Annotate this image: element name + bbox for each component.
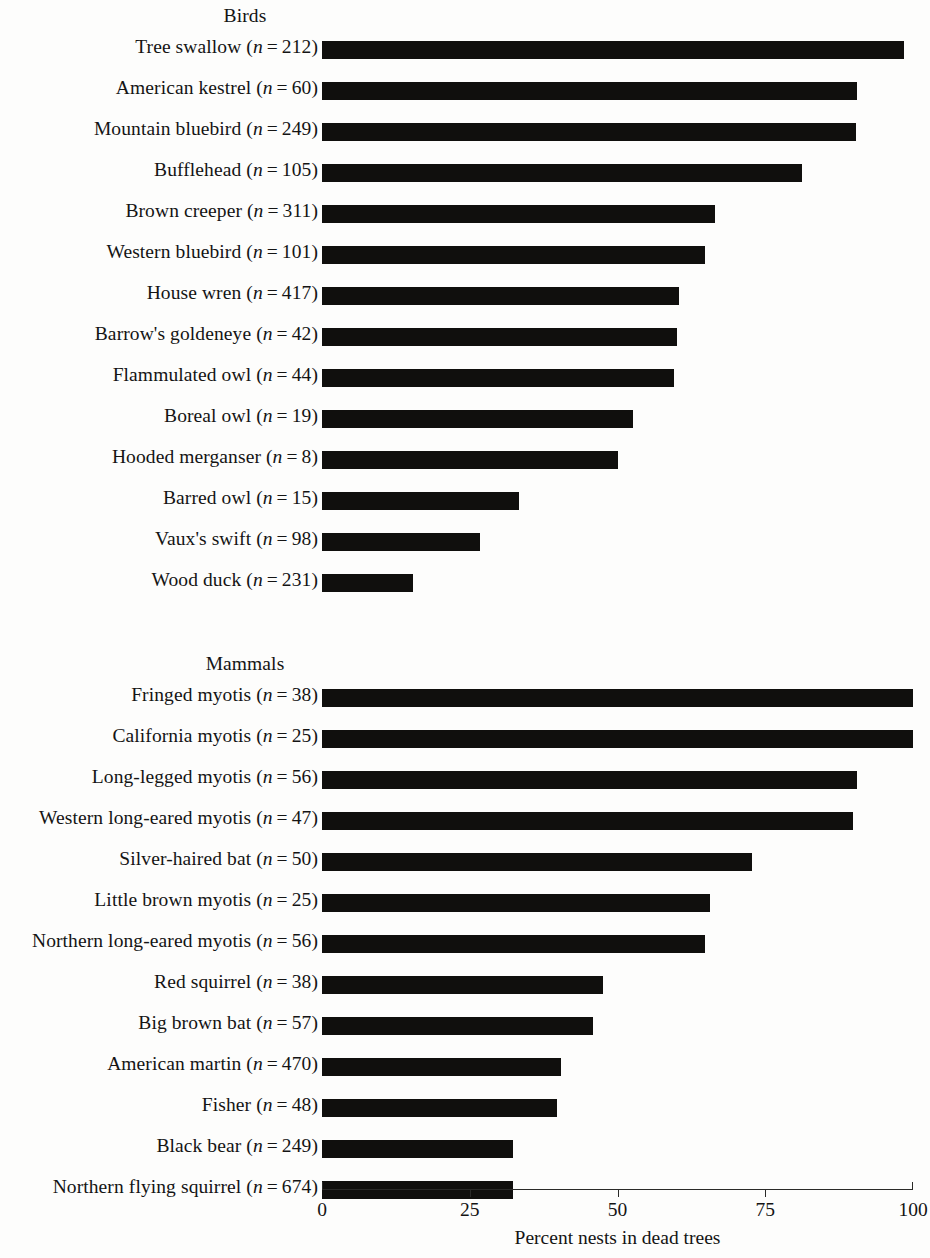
x-axis-tick-label: 0 — [317, 1200, 327, 1220]
bar — [322, 1058, 561, 1076]
bar — [322, 853, 752, 871]
bar — [322, 410, 633, 428]
bar-track — [322, 1089, 913, 1130]
bar-track — [322, 1007, 913, 1048]
panel-title-mammals: Mammals — [0, 654, 490, 674]
bar — [322, 492, 519, 510]
bar — [322, 369, 674, 387]
bar — [322, 533, 480, 551]
bar — [322, 1017, 593, 1035]
bar — [322, 730, 913, 748]
bar-row-label: Western long-eared myotis (n = 47) — [39, 802, 318, 843]
bar — [322, 1181, 513, 1199]
bar — [322, 812, 853, 830]
bar-row: Boreal owl (n = 19) — [0, 400, 930, 441]
bar — [322, 1140, 513, 1158]
bar-row-label: Big brown bat (n = 57) — [138, 1007, 318, 1048]
bar-track — [322, 802, 913, 843]
bar — [322, 164, 802, 182]
bar-rows-birds: Tree swallow (n = 212)American kestrel (… — [0, 31, 930, 605]
bar-track — [322, 154, 913, 195]
bar-track — [322, 72, 913, 113]
bar — [322, 574, 413, 592]
bar-track — [322, 966, 913, 1007]
dead-tree-nesting-chart: Birds Tree swallow (n = 212)American kes… — [0, 0, 930, 1258]
bar — [322, 771, 857, 789]
bar-row: Flammulated owl (n = 44) — [0, 359, 930, 400]
bar-row-label: Wood duck (n = 231) — [152, 564, 318, 605]
bar-row: Fringed myotis (n = 38) — [0, 679, 930, 720]
bar-track — [322, 113, 913, 154]
bar-row-label: House wren (n = 417) — [147, 277, 318, 318]
x-axis-tick-label: 25 — [460, 1200, 480, 1220]
x-axis-title: Percent nests in dead trees — [322, 1228, 913, 1248]
bar-track — [322, 720, 913, 761]
bar-row: Brown creeper (n = 311) — [0, 195, 930, 236]
bar-row: Vaux's swift (n = 98) — [0, 523, 930, 564]
bar-track — [322, 1048, 913, 1089]
bar-row: Barred owl (n = 15) — [0, 482, 930, 523]
bar — [322, 894, 710, 912]
bar — [322, 976, 603, 994]
bar — [322, 451, 618, 469]
bar-track — [322, 761, 913, 802]
bar-row-label: Black bear (n = 249) — [156, 1130, 318, 1171]
bar-track — [322, 441, 913, 482]
x-axis-tick — [618, 1189, 619, 1197]
bar-track — [322, 195, 913, 236]
bar-row: Northern long-eared myotis (n = 56) — [0, 925, 930, 966]
bar-track — [322, 318, 913, 359]
panel-title-birds: Birds — [0, 6, 490, 26]
bar-row: Wood duck (n = 231) — [0, 564, 930, 605]
bar-track — [322, 564, 913, 605]
bar-row-label: American kestrel (n = 60) — [116, 72, 318, 113]
x-axis-tick — [470, 1189, 471, 1197]
bar-row-label: Western bluebird (n = 101) — [106, 236, 318, 277]
bar-track — [322, 359, 913, 400]
bar-row: Big brown bat (n = 57) — [0, 1007, 930, 1048]
bar-row-label: Mountain bluebird (n = 249) — [94, 113, 318, 154]
bar-track — [322, 1130, 913, 1171]
bar-row: California myotis (n = 25) — [0, 720, 930, 761]
x-axis-cap-left — [322, 1182, 323, 1190]
bar-row-label: Barred owl (n = 15) — [163, 482, 318, 523]
bar-row-label: Little brown myotis (n = 25) — [94, 884, 318, 925]
x-axis-tick-label: 50 — [608, 1200, 628, 1220]
bar-row: American martin (n = 470) — [0, 1048, 930, 1089]
bar-row-label: Hooded merganser (n = 8) — [112, 441, 318, 482]
x-axis-line — [322, 1189, 913, 1190]
bar-row-label: Boreal owl (n = 19) — [164, 400, 318, 441]
bar-row-label: California myotis (n = 25) — [112, 720, 318, 761]
bar-row: Western long-eared myotis (n = 47) — [0, 802, 930, 843]
bar — [322, 328, 677, 346]
bar — [322, 82, 857, 100]
bar-row-label: Tree swallow (n = 212) — [135, 31, 318, 72]
bar-row: Hooded merganser (n = 8) — [0, 441, 930, 482]
bar — [322, 246, 705, 264]
bar-row-label: Bufflehead (n = 105) — [154, 154, 318, 195]
bar-track — [322, 925, 913, 966]
bar-track — [322, 482, 913, 523]
bar-track — [322, 843, 913, 884]
x-axis-tick-label: 75 — [756, 1200, 776, 1220]
bar-row: Red squirrel (n = 38) — [0, 966, 930, 1007]
bar — [322, 935, 705, 953]
bar-track — [322, 884, 913, 925]
bar-row: Black bear (n = 249) — [0, 1130, 930, 1171]
bar-row: Tree swallow (n = 212) — [0, 31, 930, 72]
bar-row-label: Flammulated owl (n = 44) — [113, 359, 318, 400]
bar-row: Bufflehead (n = 105) — [0, 154, 930, 195]
x-axis-cap-right — [912, 1182, 913, 1190]
bar-row: Fisher (n = 48) — [0, 1089, 930, 1130]
bar — [322, 1099, 557, 1117]
bar-row-label: Barrow's goldeneye (n = 42) — [95, 318, 318, 359]
x-axis-tick-label: 100 — [898, 1200, 927, 1220]
bar-track — [322, 31, 913, 72]
bar-row-label: Long-legged myotis (n = 56) — [92, 761, 318, 802]
bar-track — [322, 679, 913, 720]
bar-track — [322, 400, 913, 441]
bar-row: House wren (n = 417) — [0, 277, 930, 318]
bar-row: Barrow's goldeneye (n = 42) — [0, 318, 930, 359]
bar-row-label: Vaux's swift (n = 98) — [155, 523, 318, 564]
bar-track — [322, 523, 913, 564]
